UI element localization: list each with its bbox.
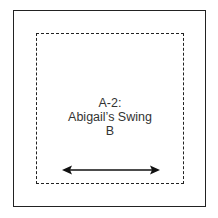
fabric-letter: B xyxy=(36,124,184,138)
block-label: A-2: Abigail’s Swing B xyxy=(36,96,184,138)
block-name: Abigail’s Swing xyxy=(36,110,184,124)
double-arrow-icon xyxy=(62,164,160,176)
block-code: A-2: xyxy=(36,96,184,110)
